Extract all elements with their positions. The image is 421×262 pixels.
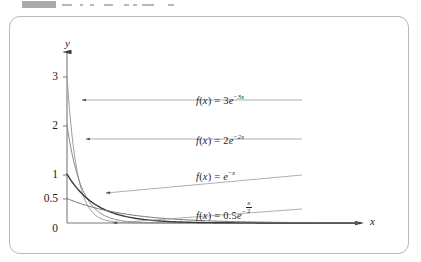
y-tick-label-3: 3 — [36, 70, 58, 82]
y-tick-marks — [63, 77, 67, 199]
toolbar-fragment — [104, 4, 113, 6]
y-tick-label-0: 0 — [36, 222, 58, 234]
y-tick-label-0-5: 0.5 — [28, 192, 58, 204]
figure-panel: y x 3 2 1 0.5 0 f(x) = 3e−3x f(x) = 2e−2… — [9, 16, 409, 254]
toolbar-fragment — [62, 4, 72, 6]
function-label-2e-neg2x: f(x) = 2e−2x — [196, 133, 244, 146]
top-toolbar-strip — [0, 0, 421, 12]
toolbar-fragment — [22, 1, 56, 8]
toolbar-fragment — [133, 4, 137, 6]
toolbar-fragment — [142, 4, 154, 6]
y-axis-label: y — [65, 37, 70, 49]
toolbar-fragment — [168, 4, 174, 6]
toolbar-fragment — [124, 4, 129, 6]
function-label-05e-negx-over-2: f(x) = 0.5e−x2 — [196, 201, 252, 221]
toolbar-fragment — [80, 4, 83, 6]
y-tick-label-2: 2 — [36, 119, 58, 131]
toolbar-fragment — [90, 4, 94, 6]
y-tick-label-1: 1 — [36, 168, 58, 180]
x-axis-label: x — [370, 215, 375, 227]
leader-lines-group — [82, 100, 302, 223]
function-label-3e-neg3x: f(x) = 3e−3x — [196, 93, 244, 106]
function-label-e-negx: f(x) = e−x — [196, 169, 235, 182]
